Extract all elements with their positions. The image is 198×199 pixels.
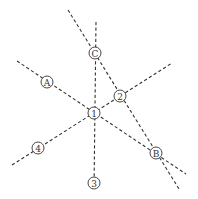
axis-nodes: CA214B3 [32,47,162,189]
axis-diagram: CA214B3 [0,0,198,199]
axis-node-1: 1 [88,107,100,119]
axis-lines [12,10,186,190]
axis-node-label: 2 [117,92,123,102]
axis-node-label: 4 [35,144,41,154]
axis-node-label: 1 [91,109,97,119]
axis-node-A: A [41,76,53,88]
axis-node-C: C [89,47,101,59]
axis-node-2: 2 [114,90,126,102]
axis-node-label: B [153,149,160,159]
axis-node-B: B [150,147,162,159]
axis-node-3: 3 [88,177,100,189]
axis-node-label: C [92,49,99,59]
axis-node-label: 3 [91,179,97,189]
axis-node-4: 4 [32,142,44,154]
axis-node-label: A [43,78,51,88]
